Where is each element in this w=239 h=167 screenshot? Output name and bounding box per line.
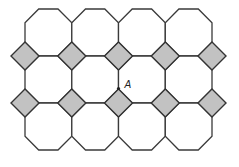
- point-a-label: A: [124, 79, 132, 90]
- octagon-layer: [25, 9, 212, 150]
- point-a-marker: [117, 87, 120, 90]
- octagon-tiling-diagram: A: [0, 0, 239, 167]
